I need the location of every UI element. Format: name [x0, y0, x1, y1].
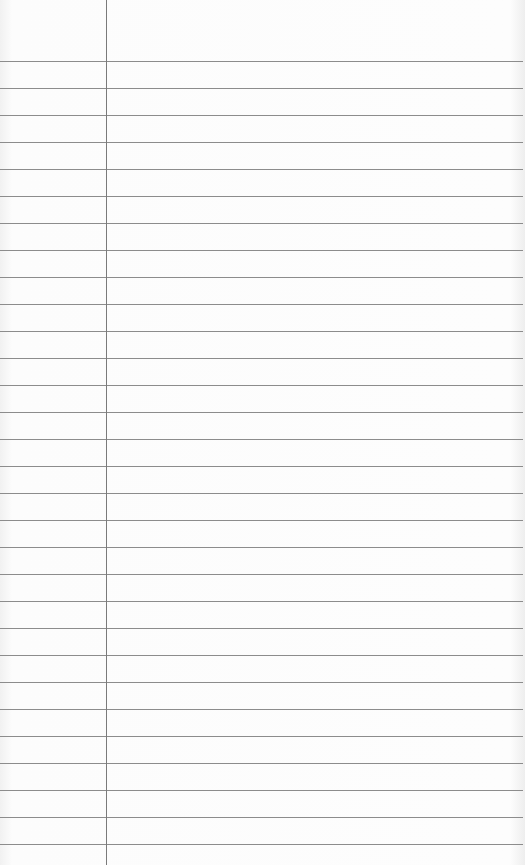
ruled-line — [0, 844, 523, 845]
ruled-line — [0, 358, 523, 359]
ruled-line — [0, 655, 523, 656]
ruled-line — [0, 142, 523, 143]
ruled-line — [0, 223, 523, 224]
ruled-line — [0, 331, 523, 332]
ruled-line — [0, 250, 523, 251]
ruled-line — [0, 115, 523, 116]
ruled-line — [0, 169, 523, 170]
ruled-line — [0, 736, 523, 737]
ruled-line — [0, 790, 523, 791]
ruled-line — [0, 412, 523, 413]
ruled-line — [0, 196, 523, 197]
lined-paper — [0, 0, 525, 865]
ruled-line — [0, 277, 523, 278]
ruled-line — [0, 466, 523, 467]
ruled-line — [0, 493, 523, 494]
ruled-line — [0, 682, 523, 683]
ruled-line — [0, 709, 523, 710]
ruled-line — [0, 547, 523, 548]
margin-line — [106, 0, 107, 865]
ruled-line — [0, 520, 523, 521]
ruled-line — [0, 628, 523, 629]
ruled-line — [0, 304, 523, 305]
ruled-line — [0, 61, 523, 62]
ruled-line — [0, 817, 523, 818]
ruled-line — [0, 601, 523, 602]
ruled-line — [0, 385, 523, 386]
ruled-line — [0, 88, 523, 89]
ruled-line — [0, 439, 523, 440]
ruled-line — [0, 574, 523, 575]
ruled-line — [0, 763, 523, 764]
